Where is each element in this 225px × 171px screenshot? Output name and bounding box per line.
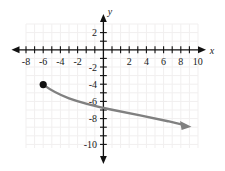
x-tick-label-10: 10: [193, 56, 203, 67]
y-tick-label-2: 2: [92, 27, 97, 38]
x-tick-label--4: -4: [56, 56, 64, 67]
graph-figure: -8 -6 -4 -2 2 4 6 8 10 2 -2 -4 -6 -8 -10…: [0, 0, 225, 171]
x-tick-label--2: -2: [73, 56, 81, 67]
curve-start-point: [40, 81, 47, 88]
x-tick-label-2: 2: [127, 56, 132, 67]
x-tick-label-4: 4: [144, 56, 149, 67]
x-tick-label--6: -6: [39, 56, 47, 67]
coordinate-plane-chart: -8 -6 -4 -2 2 4 6 8 10 2 -2 -4 -6 -8 -10…: [0, 0, 225, 171]
grid-lines: [26, 24, 198, 148]
x-tick-label-8: 8: [178, 56, 183, 67]
x-tick-label--8: -8: [22, 56, 30, 67]
y-tick-label--10: -10: [84, 139, 97, 150]
y-tick-label--8: -8: [89, 113, 97, 124]
x-axis-label: x: [209, 45, 215, 56]
y-axis-label: y: [107, 6, 113, 17]
x-tick-label-6: 6: [161, 56, 166, 67]
y-tick-label--4: -4: [89, 79, 97, 90]
y-tick-label--2: -2: [89, 62, 97, 73]
